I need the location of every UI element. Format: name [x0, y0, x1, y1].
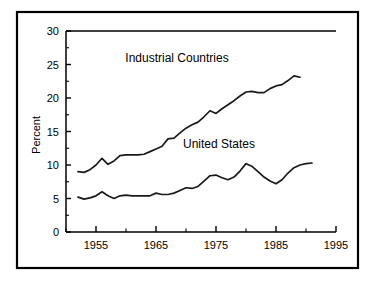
y-tick-label: 30 — [47, 25, 59, 37]
series-annotations: Industrial CountriesUnited States — [125, 51, 255, 151]
chart-figure: 051015202530 19551965197519851995 Percen… — [0, 0, 375, 281]
y-axis-tick-labels: 051015202530 — [47, 25, 59, 238]
x-tick-label: 1975 — [204, 239, 228, 251]
y-tick-label: 5 — [53, 193, 59, 205]
y-tick-label: 0 — [53, 226, 59, 238]
series-label-united-states: United States — [183, 137, 255, 151]
x-axis-tick-labels: 19551965197519851995 — [84, 239, 348, 251]
series-line-industrial-countries — [78, 76, 300, 172]
x-tick-label: 1995 — [324, 239, 348, 251]
x-tick-label: 1965 — [144, 239, 168, 251]
x-tick-label: 1955 — [84, 239, 108, 251]
y-axis-title: Percent — [30, 116, 42, 154]
series-label-industrial-countries: Industrial Countries — [125, 51, 228, 65]
y-tick-label: 25 — [47, 59, 59, 71]
x-tick-label: 1985 — [264, 239, 288, 251]
y-tick-label: 10 — [47, 159, 59, 171]
x-axis-ticks — [66, 226, 336, 232]
y-tick-label: 20 — [47, 92, 59, 104]
y-tick-label: 15 — [47, 126, 59, 138]
series-line-united-states — [78, 163, 312, 199]
chart-svg: 051015202530 19551965197519851995 Percen… — [0, 0, 375, 281]
